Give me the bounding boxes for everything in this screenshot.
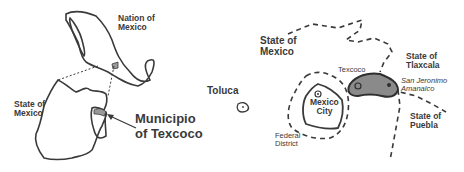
label-line: Municipio: [135, 112, 203, 127]
label-line: City: [310, 107, 339, 116]
label-line: Puebla: [410, 121, 441, 130]
label-state-of-mexico-right: State of Mexico: [260, 36, 297, 57]
label-municipio-texcoco: Municipio of Texcoco: [135, 112, 203, 142]
baja-california-outline: [70, 18, 85, 56]
state-marker-small: [112, 62, 118, 69]
label-line: Mexico: [118, 23, 155, 32]
label-line: District: [275, 140, 300, 148]
label-mexico-city: Mexico City: [310, 98, 339, 116]
puebla-boundary: [390, 90, 400, 160]
label-line: Tlaxcala: [406, 61, 440, 70]
label-line: Mexico: [260, 47, 297, 58]
label-federal-district: Federal District: [275, 132, 300, 148]
label-texcoco: Texcoco: [338, 66, 366, 74]
label-line: of Texcoco: [135, 127, 203, 142]
label-san-jeronimo-amanalco: San Jeronimo Amanalco: [401, 77, 447, 93]
label-state-of-mexico-left: State of Mexico: [14, 100, 45, 118]
label-nation-of-mexico: Nation of Mexico: [118, 14, 155, 32]
label-state-of-puebla: State of Puebla: [410, 112, 441, 130]
label-line: Mexico: [14, 109, 45, 118]
label-line: State of: [260, 36, 297, 47]
label-state-of-tlaxcala: State of Tlaxcala: [406, 52, 440, 70]
label-toluca: Toluca: [207, 86, 238, 97]
label-line: Amanalco: [401, 85, 447, 93]
state-of-mexico-outline-left: [35, 80, 106, 160]
